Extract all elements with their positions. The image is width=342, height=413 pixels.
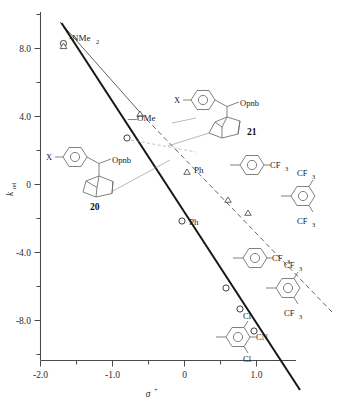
substituent-cf3-label: CF xyxy=(284,308,295,318)
figure-background xyxy=(0,0,342,413)
hammett-plot-figure: 8.0 4.0 0 -4.0 -8.0 k rel -2.0 -1.0 0 1.… xyxy=(0,0,342,413)
y-tick-label: -8.0 xyxy=(16,316,31,326)
substituent-cl-label: Cl xyxy=(243,354,252,364)
y-axis-title-sub: rel xyxy=(10,182,17,189)
x-tick-label: -2.0 xyxy=(33,370,48,380)
label-ph-upper-text: Ph xyxy=(194,165,204,175)
y-tick-label: 0 xyxy=(26,180,31,190)
substituent-cf3-subscript: 3 xyxy=(312,173,315,180)
structure-21-number: 21 xyxy=(247,127,257,137)
y-tick-label: 8.0 xyxy=(19,44,31,54)
label-ome: —OMe xyxy=(127,113,156,123)
substituent-cn-label: CN xyxy=(256,332,268,342)
x-tick-label: -1.0 xyxy=(105,370,120,380)
substituent-cf3-label: CF xyxy=(284,260,295,270)
substituent-cf3-label: CF xyxy=(272,253,283,263)
substituent-cf3-subscript: 3 xyxy=(312,221,315,228)
label-ph-lower-text: Ph xyxy=(189,217,199,227)
label-ph-upper: Ph xyxy=(194,165,204,175)
label-nme2-subscript: 2 xyxy=(96,38,99,45)
label-ome-text: —OMe xyxy=(127,113,156,123)
label-ph-lower: Ph xyxy=(189,217,199,227)
x-tick-label: 0 xyxy=(182,370,187,380)
plot-canvas: 8.0 4.0 0 -4.0 -8.0 k rel -2.0 -1.0 0 1.… xyxy=(0,0,342,413)
substituent-cf3-label: CF xyxy=(297,168,308,178)
structure-20-number: 20 xyxy=(90,202,100,212)
substituent-cf3-subscript: 3 xyxy=(285,165,288,172)
y-tick-label: 4.0 xyxy=(19,112,31,122)
substituent-cf3-label: CF xyxy=(297,216,308,226)
substituent-cf3-subscript: 3 xyxy=(299,313,302,320)
y-tick-label: -4.0 xyxy=(16,248,31,258)
data-point-circle xyxy=(124,135,130,141)
x-axis-title-sup: + xyxy=(154,386,158,393)
structure-20-x-label: X xyxy=(46,152,52,162)
substituent-cl-label: Cl xyxy=(243,311,252,321)
structure-21-leaving-group: Opnb xyxy=(240,98,259,108)
structure-21-x-label: X xyxy=(174,95,180,105)
data-point-circle xyxy=(179,218,185,224)
data-point-circle xyxy=(223,285,229,291)
x-tick-label: 1.0 xyxy=(251,370,263,380)
x-axis-title-main: σ xyxy=(146,389,151,399)
substituent-cf3-subscript: 3 xyxy=(299,265,302,272)
substituent-cf3-label: CF xyxy=(270,160,281,170)
structure-20-leaving-group: Opnb xyxy=(112,155,131,165)
label-nme2-text: -NMe xyxy=(69,33,91,43)
